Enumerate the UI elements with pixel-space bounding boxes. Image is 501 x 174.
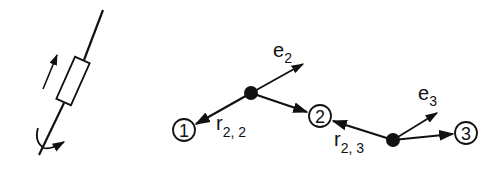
- node-1-label: 1: [179, 121, 189, 141]
- joint-chain: 1 2 3 e2 e3 r2, 2 r2, 3: [173, 39, 477, 156]
- node-1: 1: [173, 119, 195, 141]
- label-r22: r2, 2: [216, 112, 246, 140]
- node-2-label: 2: [315, 107, 325, 127]
- label-r23: r2, 3: [334, 128, 364, 156]
- joint-3-dot: [386, 133, 400, 147]
- node-3: 3: [455, 122, 477, 144]
- joint-2-dot: [244, 86, 258, 100]
- kinematic-diagram: 1 2 3 e2 e3 r2, 2 r2, 3: [0, 0, 501, 174]
- node-3-label: 3: [461, 124, 471, 144]
- axis-line-upper: [84, 10, 103, 60]
- translation-arrow-icon: [43, 55, 57, 89]
- label-e3: e3: [418, 82, 437, 109]
- vector-e2: [251, 64, 303, 93]
- vector-r23: [333, 121, 393, 140]
- vector-r22: [196, 93, 251, 124]
- label-e2: e2: [273, 39, 292, 66]
- joint-axis-figure: [37, 10, 103, 155]
- link-joint2-to-node2: [251, 93, 307, 112]
- link-box: [56, 57, 89, 106]
- node-2: 2: [309, 105, 331, 127]
